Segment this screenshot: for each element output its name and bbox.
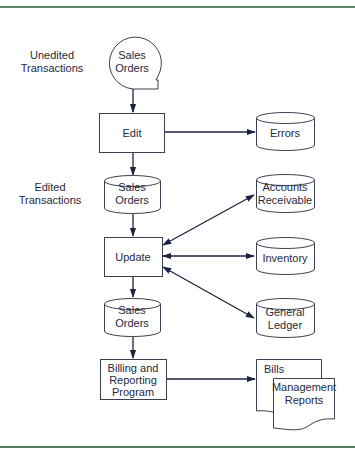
node-errors: Errors (257, 113, 315, 151)
svg-text:Reporting: Reporting (109, 374, 157, 386)
svg-text:Update: Update (115, 251, 150, 263)
label-edited-transactions: Edited Transactions (19, 181, 82, 206)
svg-text:Sales: Sales (118, 49, 146, 61)
svg-text:Transactions: Transactions (19, 194, 82, 206)
svg-text:Bills: Bills (264, 363, 285, 375)
svg-text:Billing and: Billing and (108, 362, 159, 374)
svg-text:Accounts: Accounts (262, 181, 308, 193)
svg-text:Sales: Sales (118, 181, 146, 193)
node-edit: Edit (100, 114, 165, 153)
node-update: Update (105, 238, 163, 277)
edge-update-ar (163, 195, 254, 245)
edge-update-gl (163, 267, 254, 318)
svg-text:Orders: Orders (115, 62, 149, 74)
svg-text:Ledger: Ledger (268, 319, 303, 331)
node-inventory: Inventory (257, 238, 315, 275)
svg-text:Receivable: Receivable (258, 194, 312, 206)
label-unedited-transactions: Unedited Transactions (21, 49, 84, 74)
svg-text:Errors: Errors (270, 127, 300, 139)
node-billing-reporting-program: Billing and Reporting Program (101, 360, 167, 400)
svg-text:Inventory: Inventory (262, 252, 308, 264)
node-accounts-receivable: Accounts Receivable (257, 175, 315, 213)
svg-text:Orders: Orders (115, 317, 149, 329)
svg-text:Program: Program (112, 386, 154, 398)
svg-text:Reports: Reports (285, 394, 324, 406)
node-management-reports: Management Reports (272, 379, 336, 430)
svg-text:Transactions: Transactions (21, 62, 84, 74)
svg-text:Management: Management (272, 381, 336, 393)
node-general-ledger: General Ledger (257, 299, 315, 338)
svg-text:Sales: Sales (118, 304, 146, 316)
svg-text:Edited: Edited (34, 181, 65, 193)
flowchart-canvas: Unedited Transactions Edited Transaction… (0, 0, 355, 449)
svg-text:General: General (265, 306, 304, 318)
svg-text:Unedited: Unedited (30, 49, 74, 61)
svg-text:Orders: Orders (115, 194, 149, 206)
node-sales-orders-input: Sales Orders (109, 37, 161, 89)
node-sales-orders-edited: Sales Orders (105, 176, 161, 214)
node-sales-orders-updated: Sales Orders (105, 299, 161, 337)
svg-text:Edit: Edit (123, 127, 142, 139)
